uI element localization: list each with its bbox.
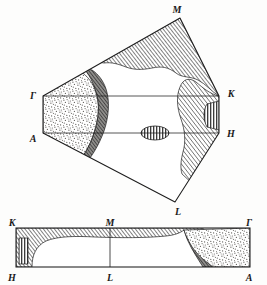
label-bottom-Gamma: Γ [245,217,253,228]
label-A: A [29,133,37,144]
label-bottom-M: M [105,217,116,228]
stripe-patch-right [204,101,219,130]
figure-canvas: M Γ A K H L [0,0,267,285]
label-bottom-H: H [7,272,17,283]
label-Gamma: Γ [29,90,37,101]
stripe-patch-bottom-left [19,238,28,264]
label-K: K [227,88,236,99]
label-H: H [226,128,236,139]
label-L: L [174,206,181,217]
label-bottom-K: K [8,217,17,228]
label-bottom-L: L [106,272,113,283]
bottom-panel: K M Γ H L A [7,217,253,283]
label-bottom-A: A [245,272,253,283]
label-M: M [172,4,183,15]
figure-root: M Γ A K H L [0,0,267,285]
top-panel: M Γ A K H L [29,4,236,217]
